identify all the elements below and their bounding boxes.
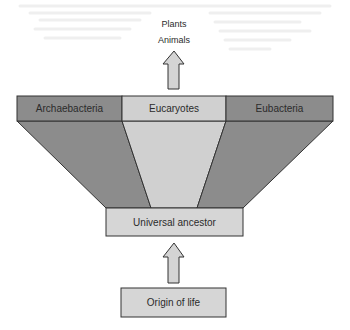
eubacteria-label: Eubacteria <box>226 96 333 121</box>
universal-ancestor-label: Universal ancestor <box>106 208 243 236</box>
up-arrow-icon <box>163 51 184 89</box>
eucaryotes-label: Eucaryotes <box>122 96 226 121</box>
origin-of-life-label: Origin of life <box>121 288 226 317</box>
output-label-plants: Plants <box>144 19 204 29</box>
diagram-shapes <box>0 0 350 330</box>
up-arrow-icon <box>163 243 184 283</box>
archaebacteria-label: Archaebacteria <box>17 96 122 121</box>
tree-of-life-diagram: Plants Animals Archaebacteria Eucaryotes… <box>0 0 350 330</box>
output-label-animals: Animals <box>144 35 204 45</box>
